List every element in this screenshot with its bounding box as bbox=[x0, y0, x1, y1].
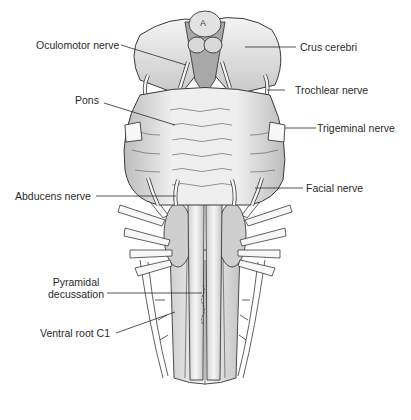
label-abducens-nerve: Abducens nerve bbox=[15, 190, 91, 202]
mammillary-left bbox=[188, 37, 206, 53]
label-pyramidal-decussation-line1: Pyramidal bbox=[48, 276, 104, 288]
label-facial-nerve: Facial nerve bbox=[306, 182, 363, 194]
marker-a: A bbox=[200, 17, 206, 29]
brainstem-illustration bbox=[0, 0, 411, 420]
label-trigeminal-nerve: Trigeminal nerve bbox=[317, 122, 395, 134]
brainstem-diagram: Oculomotor nerve Crus cerebri Trochlear … bbox=[0, 0, 411, 420]
label-pons: Pons bbox=[75, 94, 99, 106]
mammillary-right bbox=[204, 37, 222, 53]
label-trochlear-nerve: Trochlear nerve bbox=[295, 84, 368, 96]
label-pyramidal-decussation-line2: decussation bbox=[46, 288, 106, 300]
label-ventral-root-c1: Ventral root C1 bbox=[40, 327, 110, 339]
left-pyramid bbox=[188, 200, 204, 380]
label-crus-cerebri: Crus cerebri bbox=[300, 41, 357, 53]
right-trigeminal-nerve bbox=[268, 122, 285, 142]
leader-ventral-root bbox=[116, 312, 175, 333]
left-trigeminal-nerve bbox=[125, 122, 142, 142]
label-oculomotor-nerve: Oculomotor nerve bbox=[36, 39, 119, 51]
right-pyramid bbox=[206, 200, 222, 380]
